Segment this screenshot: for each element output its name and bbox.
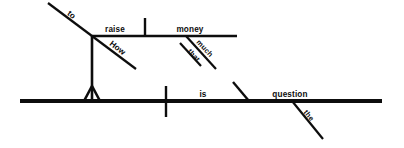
word-question: question — [272, 90, 307, 99]
word-the: the — [302, 108, 316, 123]
word-is: is — [199, 90, 206, 99]
diagram-canvas: to raise How money much that is question… — [0, 0, 404, 148]
word-raise: raise — [105, 25, 125, 34]
sentence-diagram: to raise How money much that is question… — [0, 0, 404, 148]
predicate-nominative-divider — [233, 82, 249, 101]
word-money: money — [176, 25, 203, 34]
word-to: to — [66, 9, 78, 21]
